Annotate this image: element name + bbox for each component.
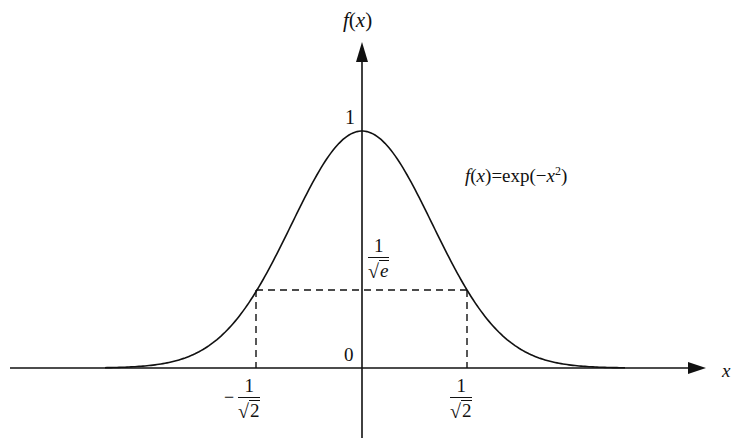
left-tick-sign: − [224, 387, 234, 408]
level-radicand: e [379, 260, 389, 281]
left-tick-radicand: 2 [249, 400, 261, 421]
gaussian-plot [0, 0, 747, 445]
level-numerator: 1 [371, 236, 387, 257]
y-axis-arrow-icon [356, 42, 368, 62]
formula-close-paren: ) [561, 165, 567, 186]
y-axis-label: f(x) [343, 8, 372, 33]
right-tick-radicand: 2 [461, 400, 473, 421]
sqrt-icon: √ [238, 401, 249, 421]
formula-minus: − [536, 165, 547, 186]
formula-var: x [477, 165, 485, 186]
y-label-open: ( [349, 8, 356, 32]
x-axis-arrow-icon [688, 362, 706, 374]
left-tick-numerator: 1 [241, 376, 257, 397]
formula-eq: =exp( [491, 165, 535, 186]
sqrt-icon: √ [368, 261, 379, 281]
right-tick-label: 1 √2 [450, 376, 472, 421]
level-label: 1 √e [368, 236, 389, 281]
left-tick-label: 1 √2 [238, 376, 260, 421]
y-label-close: ) [365, 8, 372, 32]
formula-label: f(x)=exp(−x2) [465, 164, 567, 187]
right-tick-numerator: 1 [453, 376, 469, 397]
y-label-var: x [356, 8, 365, 32]
origin-label: 0 [344, 344, 354, 366]
peak-label: 1 [345, 106, 355, 129]
formula-x: x [547, 165, 555, 186]
sqrt-icon: √ [450, 401, 461, 421]
x-axis-label: x [722, 360, 730, 382]
